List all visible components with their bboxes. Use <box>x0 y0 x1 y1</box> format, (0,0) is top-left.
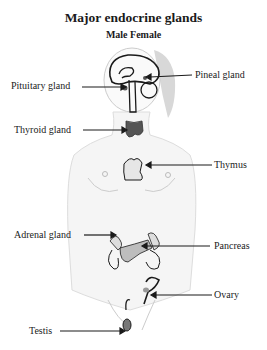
thyroid-gland-icon <box>126 121 143 137</box>
label-pancreas: Pancreas <box>214 240 250 251</box>
label-pineal-gland: Pineal gland <box>195 69 245 80</box>
thymus-icon <box>124 159 143 180</box>
label-adrenal-gland: Adrenal gland <box>14 229 71 240</box>
label-ovary: Ovary <box>214 289 239 300</box>
label-testis: Testis <box>29 325 52 336</box>
label-thyroid-gland: Thyroid gland <box>14 124 71 135</box>
label-thymus: Thymus <box>214 159 247 170</box>
testis-icon <box>123 319 131 331</box>
label-pituitary-gland: Pituitary gland <box>11 80 70 91</box>
